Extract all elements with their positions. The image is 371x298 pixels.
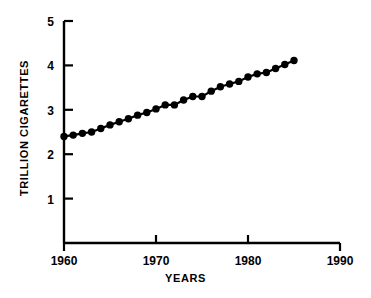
data-point-marker <box>263 69 270 76</box>
data-point-marker <box>106 121 113 128</box>
data-point-marker <box>79 130 86 137</box>
data-point-marker <box>290 57 297 64</box>
data-point-marker <box>226 80 233 87</box>
y-axis-label: TRILLION CIGARETTES <box>18 38 30 218</box>
x-tick-label: 1990 <box>327 254 354 268</box>
data-point-marker <box>180 96 187 103</box>
data-point-marker <box>208 87 215 94</box>
data-point-marker <box>134 111 141 118</box>
data-point-marker <box>125 115 132 122</box>
data-point-marker <box>162 101 169 108</box>
data-point-marker <box>143 109 150 116</box>
data-point-marker <box>88 128 95 135</box>
chart-figure: 12345 1960197019801990 TRILLION CIGARETT… <box>0 0 371 298</box>
y-tick-label: 4 <box>47 59 54 73</box>
line-chart-plot: 12345 1960197019801990 <box>0 0 371 298</box>
y-tick-label: 5 <box>47 15 54 29</box>
y-tick-label: 3 <box>47 104 54 118</box>
axes-group <box>64 21 340 243</box>
x-axis-label: YEARS <box>0 272 371 284</box>
x-tick-label: 1970 <box>143 254 170 268</box>
x-tick-label: 1960 <box>51 254 78 268</box>
y-tick-label: 1 <box>47 193 54 207</box>
data-point-marker <box>70 131 77 138</box>
data-point-marker <box>217 83 224 90</box>
data-point-marker <box>97 125 104 132</box>
y-axis-tick-labels: 12345 <box>47 15 54 207</box>
y-axis-ticks <box>64 21 73 199</box>
y-tick-label: 2 <box>47 148 54 162</box>
data-point-marker <box>116 118 123 125</box>
data-point-marker <box>235 78 242 85</box>
data-point-marker <box>152 105 159 112</box>
x-axis-tick-labels: 1960197019801990 <box>51 254 354 268</box>
data-point-marker <box>198 93 205 100</box>
data-point-marker <box>60 133 67 140</box>
data-point-marker <box>189 93 196 100</box>
data-point-marker <box>272 65 279 72</box>
data-point-marker <box>244 73 251 80</box>
data-point-marker <box>254 70 261 77</box>
x-tick-label: 1980 <box>235 254 262 268</box>
data-series-markers <box>60 57 297 140</box>
data-point-marker <box>171 101 178 108</box>
data-point-marker <box>281 61 288 68</box>
